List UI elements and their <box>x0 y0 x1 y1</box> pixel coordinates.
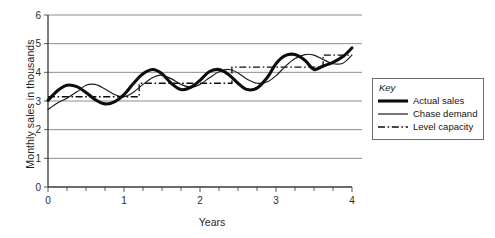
x-tick-label: 0 <box>45 195 51 206</box>
y-tick-label: 3 <box>35 96 41 107</box>
chart-legend: Key Actual sales Chase demand Level capa… <box>372 78 484 140</box>
legend-label-level-capacity: Level capacity <box>413 121 473 132</box>
legend-item-chase-demand: Chase demand <box>378 107 478 120</box>
gridlines-group <box>48 15 362 158</box>
y-axis-title: Monthly sales in thousands <box>24 19 36 189</box>
chart-figure: 0123456 01234 Monthly sales in thousands… <box>0 0 495 238</box>
x-tick-label: 1 <box>121 195 127 206</box>
y-tick-label: 2 <box>35 124 41 135</box>
dash-dot-line-icon <box>378 122 408 132</box>
y-tick-labels-group: 0123456 <box>35 10 41 193</box>
x-tick-label: 2 <box>197 195 203 206</box>
legend-title: Key <box>379 82 478 93</box>
tick-marks-group <box>44 15 352 192</box>
thin-solid-line-icon <box>378 109 408 119</box>
legend-label-actual-sales: Actual sales <box>413 95 464 106</box>
x-tick-label: 4 <box>349 195 355 206</box>
y-tick-label: 0 <box>35 182 41 193</box>
x-axis-title: Years <box>152 216 272 228</box>
x-tick-labels-group: 01234 <box>45 195 355 206</box>
legend-label-chase-demand: Chase demand <box>413 108 477 119</box>
y-tick-label: 4 <box>35 67 41 78</box>
legend-item-actual-sales: Actual sales <box>378 94 478 107</box>
legend-item-level-capacity: Level capacity <box>378 120 478 133</box>
y-tick-label: 5 <box>35 38 41 49</box>
x-tick-label: 3 <box>273 195 279 206</box>
series-line-actual-sales <box>48 48 352 104</box>
y-tick-label: 6 <box>35 10 41 21</box>
thick-solid-line-icon <box>378 96 408 106</box>
y-tick-label: 1 <box>35 153 41 164</box>
